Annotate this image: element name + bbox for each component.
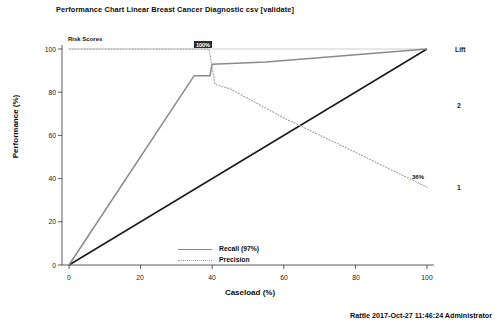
legend-label-precision: Precision bbox=[219, 256, 250, 263]
performance-chart: Performance Chart Linear Breast Cancer D… bbox=[0, 0, 500, 326]
legend-item-precision: Precision bbox=[178, 254, 259, 265]
footer-note: Rattle 2017-Oct-27 11:46:24 Administrato… bbox=[350, 311, 492, 320]
legend-key-dotted-icon bbox=[178, 256, 212, 264]
plot-area bbox=[0, 0, 500, 326]
baseline-series-line bbox=[69, 49, 427, 265]
precision-series-line bbox=[69, 49, 427, 187]
legend-key-solid-icon bbox=[178, 245, 212, 253]
legend-item-recall: Recall (97%) bbox=[178, 243, 259, 254]
legend-label-recall: Recall (97%) bbox=[219, 245, 259, 252]
chart-legend: Recall (97%) Precision bbox=[178, 243, 259, 265]
